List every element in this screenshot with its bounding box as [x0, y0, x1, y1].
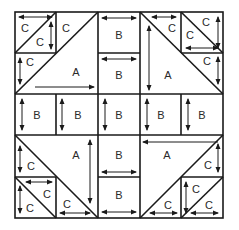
label-c: C — [26, 56, 34, 68]
label-b: B — [115, 149, 122, 161]
label-c: C — [27, 160, 35, 172]
label-c: C — [62, 22, 70, 34]
label-b: B — [115, 29, 122, 41]
label-a: A — [164, 69, 172, 81]
label-c: C — [186, 29, 194, 41]
label-c: C — [202, 16, 210, 28]
label-a: A — [163, 149, 171, 161]
label-b: B — [74, 109, 81, 121]
label-b: B — [115, 189, 122, 201]
label-b: B — [115, 69, 122, 81]
label-c: C — [204, 159, 212, 171]
label-a: A — [72, 149, 80, 161]
label-c: C — [205, 199, 213, 211]
label-c: C — [203, 55, 211, 67]
label-c: C — [26, 202, 34, 214]
label-a: A — [72, 66, 80, 78]
quilt-block-diagram: C C C C A B B C C C C A B B B B B C A C … — [0, 0, 239, 230]
label-c: C — [43, 188, 51, 200]
label-c: C — [21, 22, 29, 34]
label-c: C — [192, 183, 200, 195]
label-b: B — [198, 109, 205, 121]
label-c: C — [63, 198, 71, 210]
label-b: B — [115, 109, 122, 121]
label-c: C — [168, 22, 176, 34]
label-c: C — [164, 199, 172, 211]
piece-labels: C C C C A B B C C C C A B B B B B C A C … — [21, 16, 213, 214]
label-c: C — [36, 36, 44, 48]
label-b: B — [157, 109, 164, 121]
label-b: B — [33, 109, 40, 121]
